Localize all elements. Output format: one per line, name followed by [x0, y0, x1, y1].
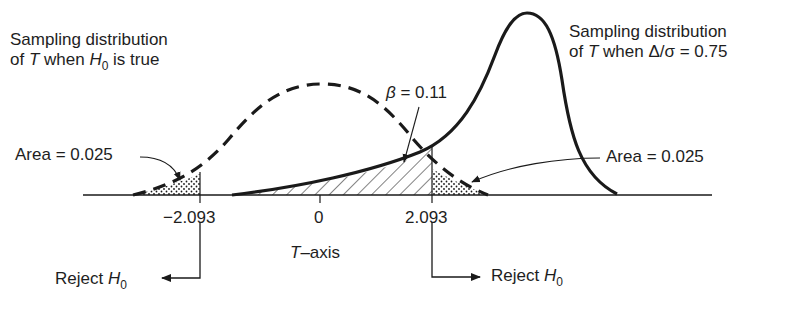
beta-value: = 0.11 [396, 83, 447, 102]
var-H: H [544, 266, 556, 285]
tick-label-left: −2.093 [163, 208, 215, 228]
text: of [10, 50, 29, 69]
text: of [569, 42, 588, 61]
axis-label: T–axis [290, 243, 340, 263]
alt-dist-line2: of T when Δ/σ = 0.75 [569, 42, 727, 62]
subscript: 0 [120, 278, 127, 292]
null-dist-label: Sampling distribution of T when H0 is tr… [10, 30, 168, 76]
var-T: T [290, 243, 300, 262]
null-dist-line2: of T when H0 is true [10, 50, 168, 76]
var-T: T [588, 42, 598, 61]
alt-dist-label: Sampling distribution of T when Δ/σ = 0.… [569, 22, 727, 62]
area-right-pointer [472, 158, 600, 182]
var-H: H [89, 50, 101, 69]
beta-region [232, 148, 432, 195]
tick-label-right: 2.093 [405, 208, 448, 228]
text: when Δ/σ = 0.75 [598, 42, 727, 61]
alt-dist-line1: Sampling distribution [569, 22, 727, 42]
area-left-pointer [140, 157, 180, 180]
text: Reject [55, 269, 108, 288]
text: Reject [491, 266, 544, 285]
null-dist-line1: Sampling distribution [10, 30, 168, 50]
text: –axis [300, 243, 340, 262]
text: when [39, 50, 89, 69]
beta-label: β = 0.11 [386, 83, 447, 103]
reject-left-label: Reject H0 [55, 269, 127, 295]
reject-right-label: Reject H0 [491, 266, 563, 292]
reject-left-leader [162, 222, 200, 278]
var-T: T [29, 50, 39, 69]
var-H: H [108, 269, 120, 288]
area-right-label: Area = 0.025 [606, 147, 704, 167]
area-left-label: Area = 0.025 [15, 145, 113, 165]
tick-label-zero: 0 [314, 208, 323, 228]
text: is true [108, 50, 159, 69]
subscript: 0 [556, 275, 563, 289]
reject-right-leader [432, 222, 480, 277]
beta-symbol: β [386, 83, 396, 102]
